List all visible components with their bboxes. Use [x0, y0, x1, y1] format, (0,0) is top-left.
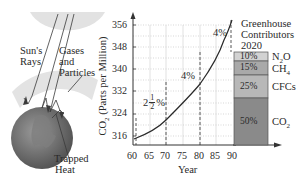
bar-pct-ch4: 15% — [240, 62, 257, 72]
x-axis-label: Year — [178, 164, 197, 175]
x-tick: 85 — [210, 150, 220, 161]
gh-title-line3: 2020 — [241, 40, 294, 51]
greenhouse-title: Greenhouse Contributors 2020 — [241, 18, 294, 51]
ann-fraction: 1 2 — [149, 94, 155, 111]
annotation-4pct-1980s: 4% — [213, 27, 227, 38]
x-tick: 65 — [144, 150, 154, 161]
x-tick: 60 — [127, 150, 137, 161]
n2o-rest: O — [283, 51, 291, 62]
n2o-name: N — [272, 51, 280, 62]
ch4-sub: 4 — [287, 69, 291, 77]
bar-name-cfcs: CFCs — [272, 81, 296, 92]
annotation-4pct-1970s: 4% — [181, 70, 195, 81]
gh-title-line2: Contributors — [241, 29, 294, 40]
co2-sub: 2 — [287, 122, 291, 130]
bar-pct-co2: 50% — [240, 116, 257, 126]
ann-pct: % — [156, 97, 165, 108]
bar-name-ch4: CH4 — [272, 63, 290, 77]
bar-pct-cfcs: 25% — [240, 81, 257, 91]
bar-pct-n2o: 10% — [240, 51, 257, 61]
x-tick: 90 — [227, 150, 237, 161]
ann-den: 2 — [150, 103, 154, 111]
ann-whole: 2 — [143, 97, 148, 108]
annotation-2-half-pct: 2 1 2 % — [143, 94, 165, 111]
y-axis-arrow-icon — [131, 12, 136, 19]
ch4-name: CH — [272, 63, 287, 74]
x-tick: 75 — [177, 150, 187, 161]
x-tick: 80 — [194, 150, 204, 161]
gh-title-line1: Greenhouse — [241, 18, 294, 29]
x-tick: 70 — [160, 150, 170, 161]
co2-name: CO — [272, 116, 287, 127]
bar-name-co2: CO2 — [272, 116, 290, 130]
